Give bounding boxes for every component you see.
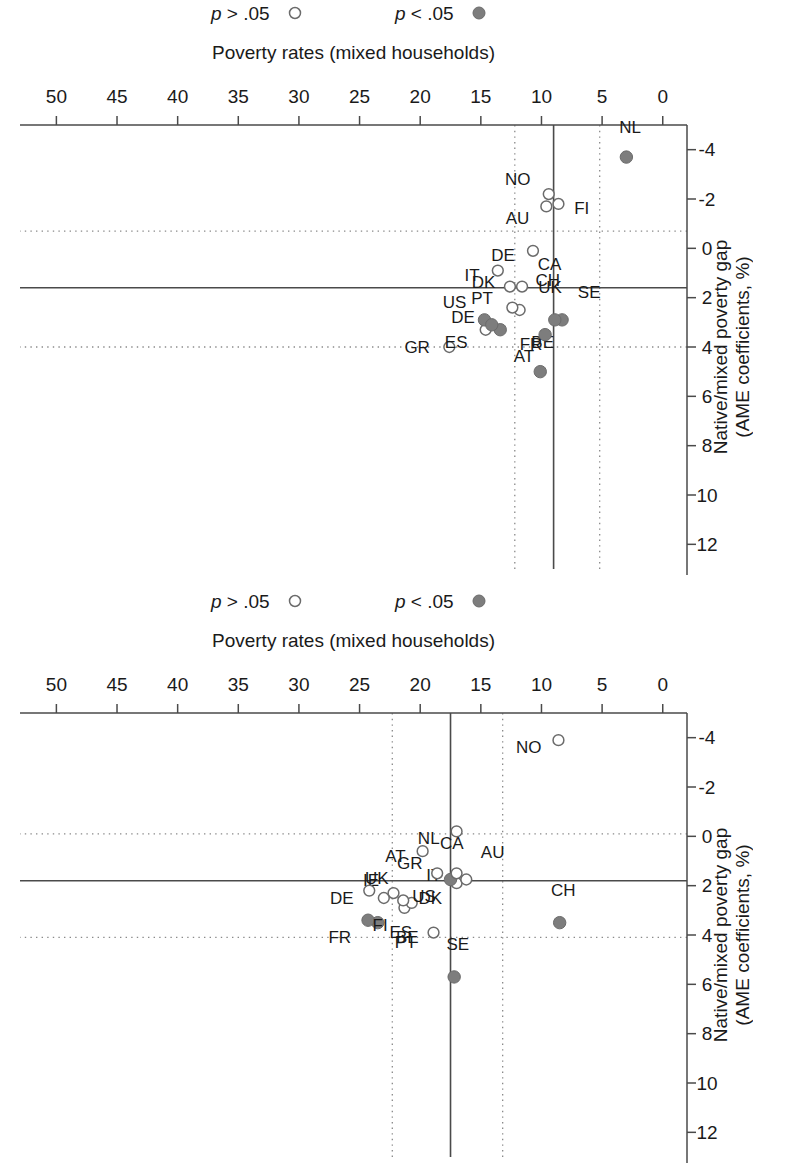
point-label-NO: NO bbox=[505, 170, 531, 189]
chart-panel-bottom: 05101520253035404550-4-2024681012Poverty… bbox=[0, 588, 787, 1175]
x-axis-tick-label: 20 bbox=[410, 86, 431, 107]
legend-symbol-not-significant bbox=[290, 596, 301, 607]
point-label-IT: IT bbox=[465, 266, 480, 285]
data-point-PT bbox=[505, 281, 516, 292]
y-axis-tick-label: -4 bbox=[699, 139, 716, 160]
data-point-NO bbox=[543, 189, 554, 200]
data-point-FI bbox=[378, 893, 389, 904]
data-point-CA bbox=[451, 868, 462, 879]
data-point-NO bbox=[553, 735, 564, 746]
y-axis-title-line1: Native/mixed poverty gap bbox=[710, 828, 731, 1042]
x-axis-tick-label: 5 bbox=[597, 674, 608, 695]
x-axis-tick-label: 15 bbox=[470, 86, 491, 107]
x-axis-tick-label: 45 bbox=[106, 674, 127, 695]
data-point-NL bbox=[451, 826, 462, 837]
point-label-NO: NO bbox=[516, 738, 542, 757]
point-label-GR: GR bbox=[404, 338, 430, 357]
point-label-DE: DE bbox=[330, 889, 354, 908]
data-point-GR bbox=[432, 868, 443, 879]
x-axis-tick-label: 50 bbox=[46, 674, 67, 695]
x-axis-tick-label: 15 bbox=[470, 674, 491, 695]
point-label-SE: SE bbox=[578, 283, 601, 302]
point-label-AU: AU bbox=[506, 209, 530, 228]
y-axis-title-line2: (AME coefficients, %) bbox=[732, 256, 753, 437]
point-label-US: US bbox=[412, 887, 436, 906]
point-label-FI: FI bbox=[574, 199, 589, 218]
point-label-NL: NL bbox=[619, 118, 641, 137]
legend-symbol-significant bbox=[473, 7, 485, 19]
scatter-svg-bottom: 05101520253035404550-4-2024681012Poverty… bbox=[0, 588, 787, 1175]
y-axis-tick-label: -2 bbox=[699, 189, 716, 210]
data-point-PT bbox=[428, 927, 439, 938]
x-axis-tick-label: 30 bbox=[288, 86, 309, 107]
data-point-NL bbox=[620, 151, 632, 163]
legend-symbol-significant bbox=[473, 595, 485, 607]
point-label-CH: CH bbox=[551, 881, 576, 900]
y-axis-title-line2: (AME coefficients, %) bbox=[732, 844, 753, 1025]
x-axis-tick-label: 10 bbox=[531, 674, 552, 695]
y-axis-tick-label: -2 bbox=[699, 777, 716, 798]
data-point-UK bbox=[398, 895, 409, 906]
x-axis-title: Poverty rates (mixed households) bbox=[212, 42, 495, 63]
point-label-DE2: DE bbox=[491, 246, 515, 265]
point-label-NL: NL bbox=[418, 829, 440, 848]
x-axis-tick-label: 40 bbox=[167, 86, 188, 107]
legend-label: p > .05 bbox=[210, 3, 270, 24]
figure-root: 05101520253035404550-4-2024681012Poverty… bbox=[0, 0, 787, 1175]
legend-label: p < .05 bbox=[394, 3, 454, 24]
scatter-svg-top: 05101520253035404550-4-2024681012Poverty… bbox=[0, 0, 787, 587]
data-point-IT bbox=[492, 265, 503, 276]
point-label-FR: FR bbox=[328, 928, 351, 947]
x-axis-tick-label: 0 bbox=[657, 674, 668, 695]
point-label-AT: AT bbox=[385, 847, 405, 866]
data-point-DE bbox=[364, 885, 375, 896]
point-label-SE: SE bbox=[446, 935, 469, 954]
y-axis-title-line1: Native/mixed poverty gap bbox=[710, 240, 731, 454]
point-label-ES: ES bbox=[445, 333, 468, 352]
point-label-CA: CA bbox=[440, 834, 464, 853]
legend-label: p < .05 bbox=[394, 591, 454, 612]
data-point-DE bbox=[486, 319, 498, 331]
x-axis-tick-label: 45 bbox=[106, 86, 127, 107]
legend-symbol-not-significant bbox=[290, 8, 301, 19]
point-label-PT: PT bbox=[471, 289, 493, 308]
data-point-CA bbox=[517, 281, 528, 292]
data-point-SE bbox=[448, 971, 460, 983]
point-label-ES: ES bbox=[389, 923, 412, 942]
x-axis-tick-label: 10 bbox=[531, 86, 552, 107]
data-point-CH bbox=[553, 916, 565, 928]
x-axis-tick-label: 50 bbox=[46, 86, 67, 107]
x-axis-tick-label: 40 bbox=[167, 674, 188, 695]
point-label-CA: CA bbox=[538, 255, 562, 274]
data-point-DE2 bbox=[528, 245, 539, 256]
data-point-AU bbox=[461, 874, 472, 885]
x-axis-tick-label: 20 bbox=[410, 674, 431, 695]
chart-panel-top: 05101520253035404550-4-2024681012Poverty… bbox=[0, 0, 787, 587]
y-axis-tick-label: 10 bbox=[696, 485, 717, 506]
x-axis-tick-label: 5 bbox=[597, 86, 608, 107]
point-label-DE: DE bbox=[451, 308, 475, 327]
point-label-AU: AU bbox=[481, 843, 505, 862]
legend-label: p > .05 bbox=[210, 591, 270, 612]
x-axis-tick-label: 0 bbox=[657, 86, 668, 107]
data-point-AU bbox=[541, 201, 552, 212]
y-axis-tick-label: -4 bbox=[699, 727, 716, 748]
point-label-FR: FR bbox=[520, 335, 543, 354]
data-point-FI bbox=[553, 199, 564, 210]
data-point-DK bbox=[507, 302, 518, 313]
data-point-UK bbox=[549, 314, 561, 326]
y-axis-tick-label: 12 bbox=[696, 1122, 717, 1143]
y-axis-tick-label: 12 bbox=[696, 534, 717, 555]
data-point-BE bbox=[534, 365, 546, 377]
y-axis-tick-label: 10 bbox=[696, 1073, 717, 1094]
x-axis-tick-label: 35 bbox=[228, 86, 249, 107]
x-axis-title: Poverty rates (mixed households) bbox=[212, 630, 495, 651]
x-axis-tick-label: 35 bbox=[228, 674, 249, 695]
x-axis-tick-label: 25 bbox=[349, 674, 370, 695]
x-axis-tick-label: 30 bbox=[288, 674, 309, 695]
point-label-FI: FI bbox=[373, 916, 388, 935]
x-axis-tick-label: 25 bbox=[349, 86, 370, 107]
